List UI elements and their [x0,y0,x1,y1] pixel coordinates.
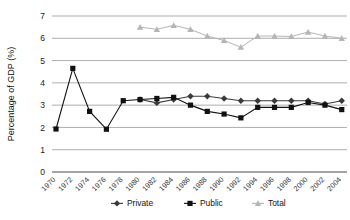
data-point-public-1980 [137,97,142,102]
x-tick-label-1988: 1988 [191,175,209,193]
data-point-private-2004 [339,97,345,103]
data-point-public-1982 [154,96,159,101]
gdp-line-chart: 01234567Percentage of GDP (%)19701972197… [0,0,350,220]
data-point-private-1988 [204,93,210,99]
data-point-public-1970 [53,126,58,131]
legend-label-total: Total [268,198,286,208]
x-tick-label-1998: 1998 [275,175,293,193]
x-tick-label-2000: 2000 [292,175,310,193]
y-tick-label-4: 4 [40,78,45,88]
series-line-public [56,68,342,129]
y-tick-label-1: 1 [40,145,45,155]
legend-marker-private [114,200,120,206]
data-point-total-1988 [204,33,210,39]
x-tick-label-1976: 1976 [90,175,108,193]
y-tick-label-3: 3 [40,100,45,110]
legend-label-private: Private [127,198,153,208]
data-point-public-2000 [306,100,311,105]
data-point-public-1990 [221,111,226,116]
legend-label-public: Public [200,198,223,208]
y-axis-title: Percentage of GDP (%) [6,47,16,141]
data-point-public-1978 [121,98,126,103]
x-tick-label-1984: 1984 [157,175,175,193]
data-point-public-1974 [87,109,92,114]
x-tick-label-1990: 1990 [208,175,226,193]
x-tick-label-1982: 1982 [140,175,158,193]
data-point-public-1984 [171,95,176,100]
data-point-public-1994 [255,105,260,110]
data-point-public-1992 [238,115,243,120]
x-tick-label-1992: 1992 [224,175,242,193]
x-tick-label-1996: 1996 [258,175,276,193]
x-tick-label-1974: 1974 [73,175,91,193]
data-point-public-1986 [188,103,193,108]
x-tick-label-1986: 1986 [174,175,192,193]
y-tick-label-7: 7 [40,11,45,21]
series-line-total [140,25,342,47]
data-point-public-1996 [272,105,277,110]
data-point-private-1992 [238,97,244,103]
series-total [137,22,345,50]
data-point-public-2004 [339,107,344,112]
data-point-private-1996 [271,97,277,103]
data-point-public-1972 [70,66,75,71]
data-point-total-2000 [305,29,311,35]
data-point-total-1984 [170,22,176,28]
x-tick-label-1980: 1980 [123,175,141,193]
legend-marker-public [187,201,192,206]
x-tick-label-2002: 2002 [308,175,326,193]
data-point-private-1990 [221,95,227,101]
data-point-public-1976 [104,127,109,132]
data-point-total-1992 [238,44,244,50]
chart-container: 01234567Percentage of GDP (%)19701972197… [0,0,350,220]
chart-legend: PrivatePublicTotal [111,198,286,208]
data-point-total-1980 [137,24,143,30]
x-tick-label-1970: 1970 [39,175,57,193]
y-tick-label-5: 5 [40,56,45,66]
x-tick-labels: 1970197219741976197819801982198419861988… [39,175,343,193]
series-public [53,66,344,132]
data-point-public-1988 [205,109,210,114]
y-tick-label-6: 6 [40,33,45,43]
x-tick-label-1978: 1978 [107,175,125,193]
data-point-public-2002 [322,103,327,108]
data-point-private-1986 [187,93,193,99]
x-tick-label-2004: 2004 [325,175,343,193]
x-tick-label-1972: 1972 [56,175,74,193]
y-tick-label-2: 2 [40,123,45,133]
data-point-private-1994 [255,97,261,103]
data-point-public-1998 [289,105,294,110]
y-gridlines: 01234567 [40,11,347,177]
data-point-private-1998 [288,97,294,103]
y-tick-label-0: 0 [40,167,45,177]
x-tick-label-1994: 1994 [241,175,259,193]
